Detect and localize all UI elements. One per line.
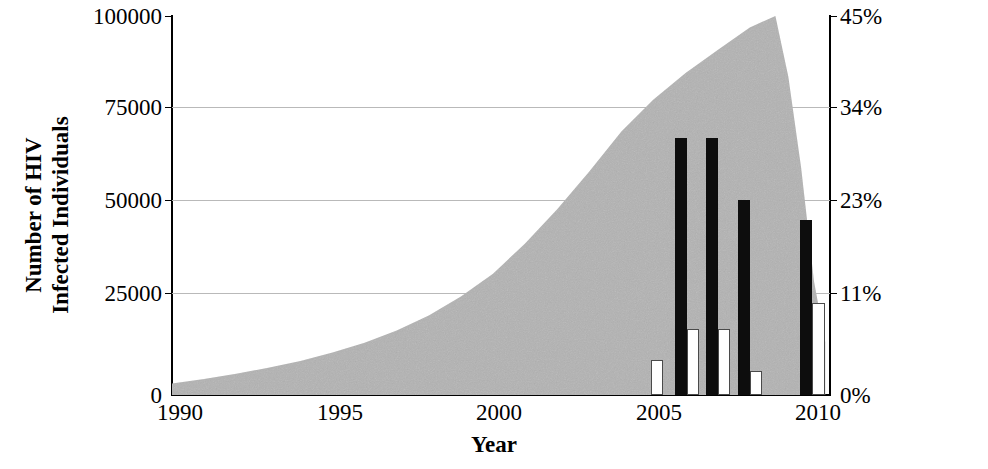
bar-black-1 <box>675 138 687 395</box>
x-tick-2005: 2005 <box>599 400 719 426</box>
bar-white-4 <box>750 371 762 395</box>
plot-area <box>172 16 830 395</box>
x-tick-1990: 1990 <box>120 400 240 426</box>
bar-black-2 <box>706 138 718 395</box>
bar-white-3 <box>718 329 730 395</box>
y-right-tick-34: 34% <box>840 95 882 121</box>
y-right-tick-45: 45% <box>840 4 882 30</box>
x-tick-2000: 2000 <box>439 400 559 426</box>
tick-mark-right-45 <box>830 16 837 17</box>
y-right-tick-23: 23% <box>840 188 882 214</box>
chart-figure: Number of HIV Infected Individuals % Ser… <box>0 0 988 469</box>
bar-black-4 <box>800 220 812 395</box>
x-axis-title: Year <box>0 432 988 458</box>
tick-mark-right-11 <box>830 293 837 294</box>
x-tick-1995: 1995 <box>280 400 400 426</box>
seroprevalence-bar-layer <box>172 16 830 395</box>
y-left-tick-100000: 100000 <box>93 4 162 30</box>
tick-mark-right-34 <box>830 107 837 108</box>
bar-white-5 <box>812 303 825 395</box>
tick-mark-right-23 <box>830 200 837 201</box>
bar-white-1 <box>651 360 663 395</box>
bar-white-2 <box>687 329 699 395</box>
y-axis-left-title-line1: Number of HIV <box>20 50 47 380</box>
y-right-tick-11: 11% <box>840 281 881 307</box>
x-tick-2010: 2010 <box>758 400 878 426</box>
y-left-tick-75000: 75000 <box>105 95 163 121</box>
y-axis-left-title-line2: Infected Individuals <box>47 50 74 380</box>
y-left-tick-50000: 50000 <box>105 188 163 214</box>
bar-black-3 <box>738 200 750 395</box>
y-axis-left-title: Number of HIV Infected Individuals <box>20 50 74 380</box>
y-left-tick-25000: 25000 <box>105 281 163 307</box>
